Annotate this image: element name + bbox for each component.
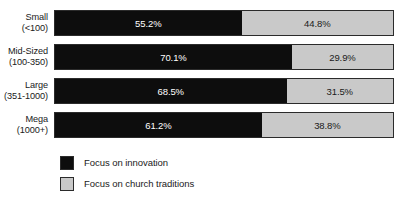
bar-track-large: 68.5% 31.5% (54, 78, 394, 104)
bar-segment-innovation: 68.5% (55, 79, 287, 103)
legend-item-innovation: Focus on innovation (60, 152, 194, 173)
bar-segment-innovation: 70.1% (55, 45, 292, 69)
bar-segment-tradition: 38.8% (262, 113, 393, 137)
bar-segment-tradition: 31.5% (287, 79, 393, 103)
legend-swatch-icon (60, 177, 74, 191)
category-name: Large (0, 80, 48, 91)
category-range: (351-1000) (0, 91, 48, 102)
table-row: Small (<100) 55.2% 44.8% (0, 6, 412, 40)
legend-label: Focus on innovation (84, 157, 168, 168)
chart-legend: Focus on innovation Focus on church trad… (60, 152, 194, 194)
legend-swatch-icon (60, 156, 74, 170)
category-range: (1000+) (0, 125, 48, 136)
bar-value-label: 38.8% (314, 120, 340, 131)
bar-track-mid-sized: 70.1% 29.9% (54, 44, 394, 70)
category-name: Small (0, 12, 48, 23)
bar-track-small: 55.2% 44.8% (54, 10, 394, 36)
category-label-small: Small (<100) (0, 12, 54, 34)
bar-segment-innovation: 55.2% (55, 11, 242, 35)
bar-value-label: 29.9% (329, 52, 355, 63)
table-row: Mid-Sized (100-350) 70.1% 29.9% (0, 40, 412, 74)
bar-value-label: 68.5% (158, 86, 184, 97)
category-name: Mega (0, 114, 48, 125)
category-range: (<100) (0, 23, 48, 34)
bar-segment-tradition: 29.9% (292, 45, 393, 69)
category-label-mid-sized: Mid-Sized (100-350) (0, 46, 54, 68)
bar-value-label: 31.5% (327, 86, 353, 97)
bar-segment-innovation: 61.2% (55, 113, 262, 137)
category-range: (100-350) (0, 57, 48, 68)
legend-label: Focus on church traditions (84, 178, 194, 189)
bar-segment-tradition: 44.8% (242, 11, 393, 35)
bar-value-label: 70.1% (160, 52, 186, 63)
bar-value-label: 44.8% (304, 18, 330, 29)
category-label-mega: Mega (1000+) (0, 114, 54, 136)
category-name: Mid-Sized (0, 46, 48, 57)
table-row: Mega (1000+) 61.2% 38.8% (0, 108, 412, 142)
legend-item-tradition: Focus on church traditions (60, 173, 194, 194)
stacked-bar-chart: Small (<100) 55.2% 44.8% Mid-Sized (100-… (0, 0, 412, 210)
bar-track-mega: 61.2% 38.8% (54, 112, 394, 138)
bar-value-label: 61.2% (145, 120, 171, 131)
category-label-large: Large (351-1000) (0, 80, 54, 102)
bar-value-label: 55.2% (135, 18, 161, 29)
table-row: Large (351-1000) 68.5% 31.5% (0, 74, 412, 108)
chart-plot-area: Small (<100) 55.2% 44.8% Mid-Sized (100-… (0, 6, 412, 142)
